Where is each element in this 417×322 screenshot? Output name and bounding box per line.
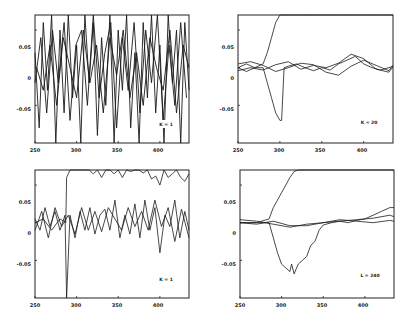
x-tick-label: 250 xyxy=(30,147,41,153)
y-tick-label: 0 xyxy=(233,230,237,236)
panel-top-right: 0.05 0 -0.05 250 300 350 400 K = 20 xyxy=(220,15,393,153)
y-tick-label: 0.05 xyxy=(224,199,237,205)
x-tick-label: 400 xyxy=(153,302,164,308)
panel-top-left: 0.05 0 -0.05 250 300 350 400 K = 1 xyxy=(17,15,189,153)
panel-bottom-right: 0.05 0 -0.05 250 300 350 400 L = 240 xyxy=(222,170,394,308)
y-tick-label: 0.05 xyxy=(19,199,32,205)
x-tick-label: 400 xyxy=(358,302,369,308)
x-tick-label: 250 xyxy=(233,147,244,153)
panel-annotation: L = 240 xyxy=(360,273,379,278)
series-line xyxy=(35,170,189,230)
figure-grid: 0.05 0 -0.05 250 300 350 400 K = 1 0.05 … xyxy=(0,0,417,322)
x-tick-label: 400 xyxy=(153,147,164,153)
x-tick-label: 300 xyxy=(276,302,287,308)
series-line xyxy=(238,15,393,68)
x-tick-label: 250 xyxy=(235,302,246,308)
panel-annotation: K = 1 xyxy=(159,277,173,282)
x-tick-label: 350 xyxy=(317,302,328,308)
x-tick-label: 350 xyxy=(315,147,326,153)
y-tick-label: -0.05 xyxy=(222,261,237,267)
series-line xyxy=(238,54,393,72)
y-tick-label: 0.05 xyxy=(222,44,235,50)
x-tick-label: 350 xyxy=(112,302,123,308)
series-layer xyxy=(240,170,394,298)
y-tick-label: 0 xyxy=(28,230,32,236)
y-tick-label: -0.05 xyxy=(220,106,235,112)
y-tick-label: 0.05 xyxy=(19,44,32,50)
panel-annotation: K = 1 xyxy=(159,122,173,127)
panel-annotation: K = 20 xyxy=(361,120,378,125)
panel-bottom-left: 0.05 0 -0.05 250 300 350 400 K = 1 xyxy=(17,170,189,308)
x-tick-label: 350 xyxy=(112,147,123,153)
series-line xyxy=(240,170,394,223)
x-tick-label: 300 xyxy=(71,302,82,308)
x-tick-label: 250 xyxy=(30,302,41,308)
plot-frame xyxy=(240,170,394,298)
y-tick-label: -0.05 xyxy=(17,106,32,112)
x-tick-label: 300 xyxy=(274,147,285,153)
y-tick-label: 0 xyxy=(28,75,32,81)
x-tick-label: 400 xyxy=(357,147,368,153)
y-tick-label: -0.05 xyxy=(17,261,32,267)
series-line xyxy=(240,208,394,274)
x-tick-label: 300 xyxy=(71,147,82,153)
y-tick-label: 0 xyxy=(231,75,235,81)
